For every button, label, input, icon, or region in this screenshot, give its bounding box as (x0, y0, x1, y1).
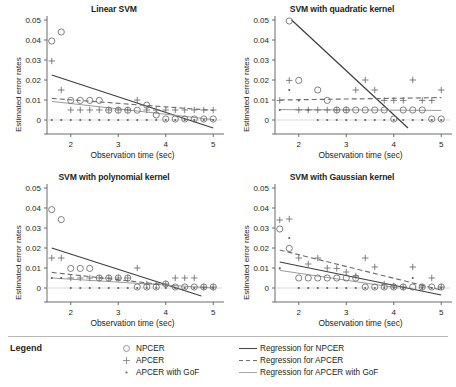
legend-label: Regression for NPCER (258, 344, 344, 353)
y-tick-label: 0 (37, 284, 42, 293)
x-tick-label: 3 (344, 308, 349, 317)
y-tick-label: 0.04 (253, 36, 269, 45)
x-axis-label: Observation time (sec) (47, 318, 218, 328)
x-tick-label: 2 (297, 308, 302, 317)
y-tick-label: 0.01 (25, 264, 41, 273)
x-tick-label: 2 (297, 140, 302, 149)
regression-line (280, 110, 442, 111)
y-tick-label: 0.01 (253, 264, 269, 273)
y-tick-label: 0.02 (25, 76, 41, 85)
circle-marker-icon (118, 344, 134, 353)
y-tick-label: 0.02 (25, 244, 41, 253)
plus-marker-icon (118, 356, 134, 365)
legend-label: Regression for APCER (258, 356, 343, 365)
y-tick-label: 0 (265, 284, 270, 293)
plot-area: 00.010.020.030.040.052345Estimated error… (0, 0, 228, 166)
legend-label: NPCER (134, 344, 165, 353)
regression-line (52, 248, 202, 296)
legend-label: APCER (134, 356, 164, 365)
legend-label: APCER with GoF (134, 368, 199, 377)
regression-line (52, 278, 214, 288)
figure-root: Linear SVM 00.010.020.030.040.052345Esti… (0, 0, 456, 387)
y-axis-label: Estimated error rates (14, 225, 23, 300)
legend-item-apcer-gof: APCER with GoF (118, 366, 199, 378)
plot-area: 00.010.020.030.040.052345Estimated error… (228, 0, 456, 166)
y-tick-label: 0.05 (25, 184, 41, 193)
dot-marker-icon (118, 368, 134, 377)
x-tick-label: 4 (392, 308, 397, 317)
data-series-npcer (286, 18, 444, 122)
plot-svg: 00.010.020.030.040.052345 (0, 0, 228, 166)
x-tick-label: 4 (392, 140, 397, 149)
y-tick-label: 0.01 (253, 96, 269, 105)
plot-svg: 00.010.020.030.040.052345 (228, 168, 456, 334)
x-axis-label: Observation time (sec) (275, 150, 446, 160)
panel-grid: Linear SVM 00.010.020.030.040.052345Esti… (0, 0, 456, 332)
y-tick-label: 0.02 (253, 76, 269, 85)
data-series-apcer-with-gof (279, 237, 443, 289)
chart-panel-gaussian-kernel: SVM with Gaussian kernel 00.010.020.030.… (228, 168, 456, 334)
data-series-npcer (49, 207, 217, 291)
y-tick-label: 0 (37, 116, 42, 125)
x-tick-label: 5 (439, 140, 444, 149)
chart-panel-linear-svm: Linear SVM 00.010.020.030.040.052345Esti… (0, 0, 228, 166)
y-tick-label: 0.03 (253, 224, 269, 233)
dashed-line-icon (238, 356, 258, 365)
plot-area: 00.010.020.030.040.052345Estimated error… (0, 168, 228, 334)
legend-label: Regression for APCER with GoF (258, 368, 378, 377)
legend-item-regression-apcer: Regression for APCER (238, 354, 378, 366)
x-tick-label: 3 (344, 140, 349, 149)
y-tick-label: 0.04 (25, 36, 41, 45)
legend-item-regression-npcer: Regression for NPCER (238, 342, 378, 354)
legend-item-npcer: NPCER (118, 342, 199, 354)
y-tick-label: 0.03 (253, 56, 269, 65)
plot-svg: 00.010.020.030.040.052345 (228, 0, 456, 166)
chart-panel-polynomial-kernel: SVM with polynomial kernel 00.010.020.03… (0, 168, 228, 334)
y-tick-label: 0.05 (253, 16, 269, 25)
y-tick-label: 0.05 (25, 16, 41, 25)
legend-marker-column: NPCER APCER APCER with GoF (118, 342, 199, 378)
y-axis-label: Estimated error rates (242, 57, 251, 132)
y-tick-label: 0.01 (25, 96, 41, 105)
y-axis-label: Estimated error rates (242, 225, 251, 300)
regression-line (280, 270, 399, 288)
legend-divider (8, 336, 448, 337)
y-tick-label: 0.05 (253, 184, 269, 193)
data-series-npcer (49, 29, 217, 122)
y-tick-label: 0.03 (25, 224, 41, 233)
legend: Legend NPCER APCER APCER with GoF (0, 332, 456, 387)
x-tick-label: 3 (116, 308, 121, 317)
y-tick-label: 0.04 (25, 204, 41, 213)
data-series-apcer-with-gof (279, 89, 443, 121)
regression-line (280, 250, 442, 290)
y-tick-label: 0.03 (25, 56, 41, 65)
x-tick-label: 4 (164, 140, 169, 149)
plot-area: 00.010.020.030.040.052345Estimated error… (228, 168, 456, 334)
regression-line (292, 20, 408, 128)
x-tick-label: 5 (439, 308, 444, 317)
data-series-apcer (49, 255, 217, 290)
x-tick-label: 5 (211, 308, 216, 317)
solid-dark-line-icon (238, 344, 258, 353)
solid-light-line-icon (238, 368, 258, 377)
y-axis-label: Estimated error rates (14, 57, 23, 132)
x-tick-label: 5 (211, 140, 216, 149)
legend-item-apcer: APCER (118, 354, 199, 366)
x-tick-label: 2 (69, 308, 74, 317)
regression-line (280, 98, 442, 100)
y-tick-label: 0.04 (253, 204, 269, 213)
x-axis-label: Observation time (sec) (275, 318, 446, 328)
legend-line-column: Regression for NPCER Regression for APCE… (238, 342, 378, 378)
x-tick-label: 2 (69, 140, 74, 149)
y-tick-label: 0 (265, 116, 270, 125)
legend-title: Legend (10, 343, 42, 353)
plot-svg: 00.010.020.030.040.052345 (0, 168, 228, 334)
regression-line (280, 262, 442, 295)
chart-panel-quadratic-kernel: SVM with quadratic kernel 00.010.020.030… (228, 0, 456, 166)
x-tick-label: 4 (164, 308, 169, 317)
x-tick-label: 3 (116, 140, 121, 149)
y-tick-label: 0.02 (253, 244, 269, 253)
x-axis-label: Observation time (sec) (47, 150, 218, 160)
legend-item-regression-apcer-gof: Regression for APCER with GoF (238, 366, 378, 378)
